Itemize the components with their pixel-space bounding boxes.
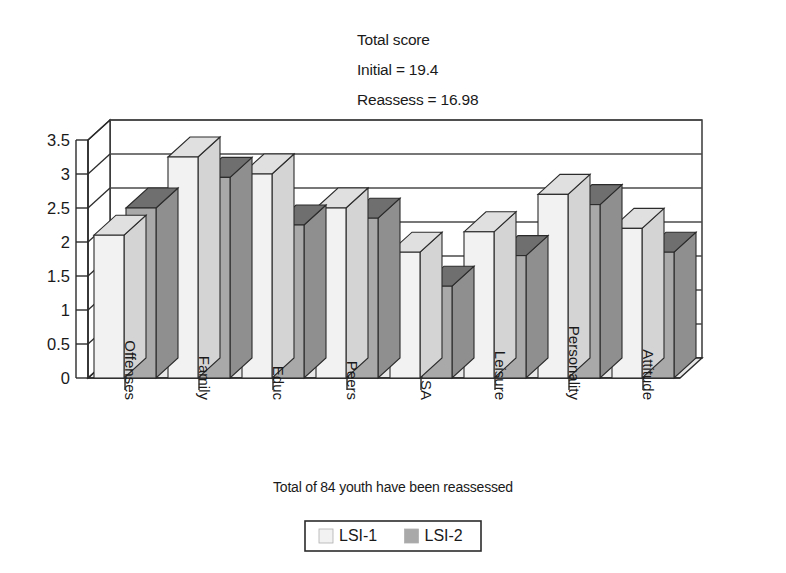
x-tick-label: Family [196,356,213,401]
bar-side-face [600,185,622,378]
bar-side-face [304,205,326,378]
bar-chart-3d: 00.511.522.533.5OffensesFamilyEducPeersS… [0,0,786,573]
bar-side-face [230,157,252,378]
bar-group [168,137,252,378]
x-tick-label: Attitude [640,349,657,400]
title-line: Initial = 19.4 [357,61,439,78]
legend-item[interactable]: LSI-2 [405,527,463,544]
title-line: Total score [357,31,430,48]
y-tick-label: 0.5 [47,335,70,353]
bar-side-face [420,232,442,378]
bar-side-face [674,232,696,378]
y-tick-label: 3 [61,165,70,183]
legend-swatch [405,529,419,543]
bar-side-face [272,154,294,378]
bar-side-face [198,137,220,378]
legend-swatch [319,529,333,543]
bar-front-face [94,235,124,378]
x-tick-label: Offenses [122,340,139,400]
x-tick-label: Educ [270,366,287,401]
chart-caption: Total of 84 youth have been reassessed [273,479,513,495]
chart-title-block: Total scoreInitial = 19.4Reassess = 16.9… [357,31,478,108]
legend-item[interactable]: LSI-1 [319,527,377,544]
bar-side-face [526,236,548,378]
legend-label: LSI-2 [425,527,463,544]
title-line: Reassess = 16.98 [357,91,478,108]
y-tick-label: 2 [61,233,70,251]
y-tick-label: 1.5 [47,267,70,285]
y-tick-label: 2.5 [47,199,70,217]
y-tick-label: 1 [61,301,70,319]
legend: LSI-1LSI-2 [305,521,481,551]
chart-figure: 00.511.522.533.5OffensesFamilyEducPeersS… [0,0,786,573]
x-tick-label: SA [418,380,435,400]
bar-group [316,188,400,378]
x-tick-label: Leisure [492,351,509,400]
x-tick-label: Personality [566,326,583,401]
x-tick-label: Peers [344,361,361,400]
bar-side-face [156,188,178,378]
y-tick-label: 0 [61,369,70,387]
legend-label: LSI-1 [339,527,377,544]
bar-side-face [346,188,368,378]
bar-side-face [378,198,400,378]
y-tick-label: 3.5 [47,131,70,149]
